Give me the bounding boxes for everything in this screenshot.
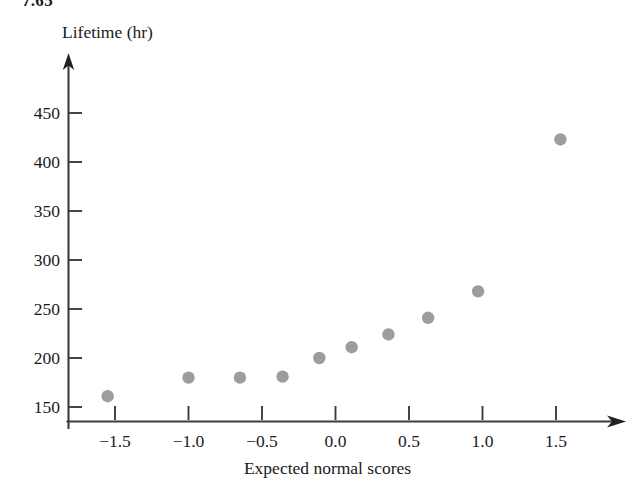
data-point [313,352,325,364]
normal-probability-plot: 7.65 Lifetime (hr) Expected normal score… [0,0,641,489]
data-point [382,328,394,340]
axes-group [63,53,626,428]
chart-canvas [0,0,641,489]
data-point [276,370,288,382]
data-point [472,285,484,297]
data-point [554,133,566,145]
data-points-group [101,133,566,402]
data-point [234,371,246,383]
data-point [345,341,357,353]
data-point [101,390,113,402]
data-point [182,371,194,383]
data-point [422,312,434,324]
x-tick-marks [115,406,556,420]
y-tick-marks [69,113,82,407]
